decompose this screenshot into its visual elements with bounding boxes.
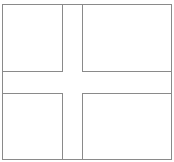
flag-quadrant-top-left	[3, 5, 63, 72]
flag-quadrant-bottom-left	[3, 94, 63, 160]
flag-quadrant-bottom-right	[83, 94, 172, 160]
flag-outline-drawing	[0, 0, 174, 162]
flag-quadrant-top-right	[83, 5, 172, 72]
